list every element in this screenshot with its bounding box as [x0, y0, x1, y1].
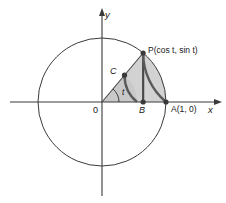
y-axis-label: y [105, 10, 110, 20]
point-marker-a [163, 99, 168, 104]
point-label-c: C [110, 67, 117, 76]
point-marker-b [141, 99, 146, 104]
point-label-p: P(cos t, sin t) [148, 46, 198, 55]
unit-circle-diagram [0, 0, 226, 203]
unit-circle-figure: P(cos t, sin t) A(1, 0) B C t 0 x y [0, 0, 226, 203]
point-marker-p [141, 50, 146, 55]
point-marker-c [122, 73, 127, 78]
angle-label-t: t [122, 88, 124, 97]
x-axis-label: x [208, 105, 213, 115]
origin-label: 0 [93, 106, 98, 115]
x-axis-arrowhead [214, 99, 222, 105]
point-label-b: B [139, 106, 145, 115]
point-label-a: A(1, 0) [171, 105, 197, 114]
